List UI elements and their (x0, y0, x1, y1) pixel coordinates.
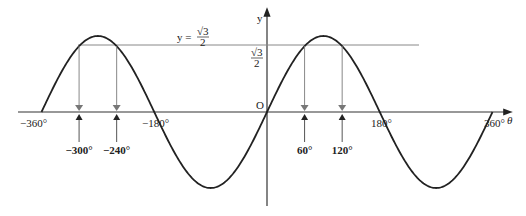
up-arrow-icon (76, 114, 83, 120)
y-axis-label: y (257, 12, 263, 24)
solution-label: 60° (297, 144, 312, 156)
solution-label: 120° (332, 144, 353, 156)
up-arrow-icon (113, 114, 120, 120)
tick-neg180: −180° (142, 117, 169, 129)
line-label-prefix: y = (177, 31, 191, 43)
x-axis-label: θ (507, 114, 513, 126)
line-label-den: 2 (200, 36, 206, 48)
up-arrow-icon (301, 114, 308, 120)
up-arrow-icon (339, 114, 346, 120)
ytick-den: 2 (254, 57, 260, 69)
solution-label: −240° (103, 144, 130, 156)
tick-180: 180° (371, 117, 392, 129)
down-arrow-icon (301, 105, 309, 111)
down-arrow-icon (75, 105, 83, 111)
origin-label: O (256, 99, 264, 111)
down-arrow-icon (338, 105, 346, 111)
down-arrow-icon (113, 105, 121, 111)
solution-markers: −300°−240°60°120° (65, 46, 352, 156)
sine-graph: −300°−240°60°120° −360° −180° 180° 360° … (0, 0, 526, 216)
solution-label: −300° (65, 144, 92, 156)
tick-360: 360° (484, 117, 505, 129)
tick-neg360: −360° (20, 117, 47, 129)
